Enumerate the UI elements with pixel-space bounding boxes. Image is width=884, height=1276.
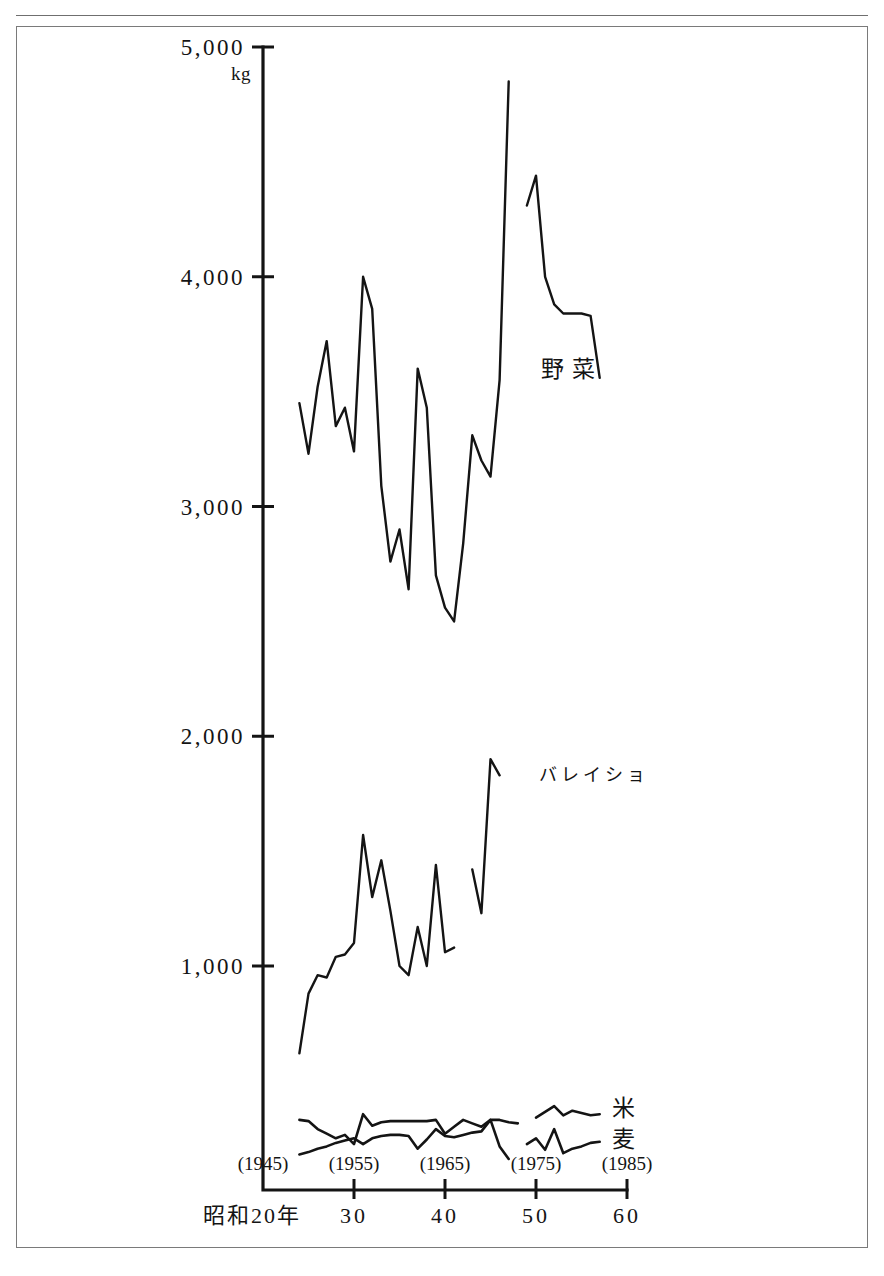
axis-labels-group: 1,0002,0003,0004,0005,000kg(1945)昭和20年(1… [181, 35, 653, 1228]
x-axis-year-label: (1945) [238, 1153, 289, 1175]
series-labels-group: 野菜バレイショ米麦 [539, 357, 649, 1153]
series-line-2 [472, 759, 499, 913]
y-axis-tick-label: 4,000 [181, 265, 245, 290]
x-axis-era-label: 40 [431, 1203, 459, 1228]
series-label-2: バレイショ [539, 765, 649, 785]
series-line-4 [527, 1129, 600, 1153]
line-chart: 1,0002,0003,0004,0005,000kg(1945)昭和20年(1… [0, 0, 884, 1276]
series-line-2 [299, 835, 454, 1053]
y-axis-tick-label: 2,000 [181, 724, 245, 749]
series-label-1: 野菜 [541, 357, 603, 382]
series-line-3 [299, 1114, 517, 1144]
y-axis-unit-label: kg [231, 63, 251, 84]
x-axis-era-label: 30 [340, 1203, 368, 1228]
figure-root: 図 野菜等の１人当たり消費量 1,0002,0003,0004,0005,000… [0, 0, 884, 1276]
series-label-3: 米 [612, 1096, 643, 1121]
x-axis-era-label: 60 [613, 1203, 641, 1228]
series-line-1 [299, 82, 508, 622]
x-axis-era-label: 50 [522, 1203, 550, 1228]
x-axis-year-label: (1975) [511, 1153, 562, 1175]
y-axis-tick-label: 5,000 [181, 35, 245, 60]
series-line-1 [527, 176, 600, 378]
series-group [299, 82, 599, 1160]
x-axis-era-label: 昭和20年 [203, 1203, 301, 1228]
x-axis-year-label: (1985) [602, 1153, 653, 1175]
chart-axes [263, 47, 627, 1190]
y-axis-tick-label: 1,000 [181, 954, 245, 979]
series-label-4: 麦 [612, 1127, 643, 1152]
axes-group [252, 47, 627, 1199]
x-axis-year-label: (1965) [420, 1153, 471, 1175]
x-axis-year-label: (1955) [329, 1153, 380, 1175]
series-line-3 [536, 1106, 600, 1118]
y-axis-tick-label: 3,000 [181, 495, 245, 520]
